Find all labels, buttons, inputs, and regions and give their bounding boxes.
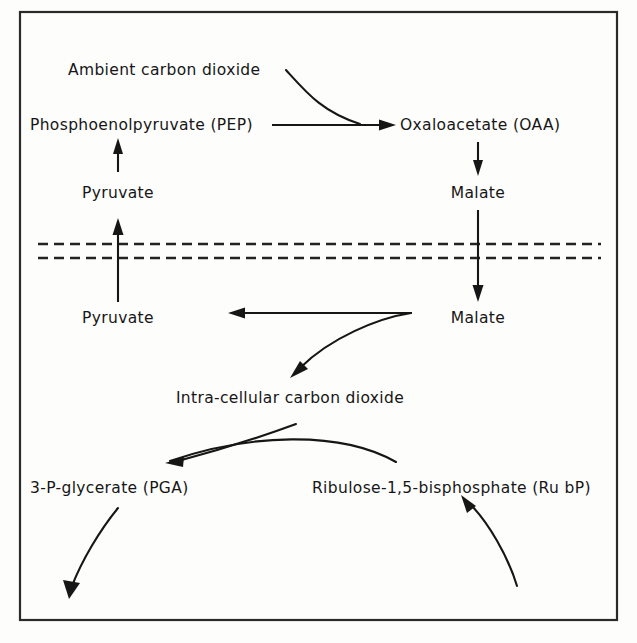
arrow-malate-to-pyruvate [228,308,412,319]
node-label-pyruvate-lower: Pyruvate [82,309,154,327]
node-label-malate-upper: Malate [451,184,505,202]
node-label-ambient-co2: Ambient carbon dioxide [68,61,260,79]
arrow-pep-to-oaa [272,120,396,131]
pathway-svg-canvas: Ambient carbon dioxide Phosphoenolpyruva… [0,0,637,643]
arrow-pyruvate-to-pep [113,138,123,172]
arrow-head-malate-to-pyruvate [228,308,245,319]
arrow-oaa-to-malate [473,142,483,176]
node-label-oaa: Oxaloacetate (OAA) [400,116,560,134]
node-label-pyruvate-upper: Pyruvate [82,184,154,202]
node-label-malate-lower: Malate [451,309,505,327]
arrow-head-pyruvate-transport [113,218,124,235]
arrow-malate-transport [473,210,484,302]
cell-membrane [38,244,601,258]
pathway-diagram: Ambient carbon dioxide Phosphoenolpyruva… [0,0,637,643]
arrow-rubp-to-pga [170,439,396,462]
arrow-pga-out [63,508,118,599]
arrow-head-malate-transport [473,285,484,302]
arrow-head-in-to-rubp [461,495,476,513]
arrow-head-oaa-to-malate [473,160,483,176]
node-label-pep: Phosphoenolpyruvate (PEP) [30,116,253,134]
node-label-intra-co2: Intra-cellular carbon dioxide [176,389,404,407]
node-label-pga: 3-P-glycerate (PGA) [30,479,189,497]
arrow-co2-to-oaa [286,70,360,124]
arrow-pyruvate-transport [113,218,124,302]
arrow-malate-to-co2 [290,313,411,378]
arrow-head-pga-out [63,580,80,599]
arrow-head-pep-to-oaa [379,120,396,131]
node-label-rubp: Ribulose-1,5-bisphosphate (Ru bP) [312,479,591,497]
arrow-in-to-rubp [461,495,517,586]
arrow-head-pyruvate-to-pep [113,138,123,154]
